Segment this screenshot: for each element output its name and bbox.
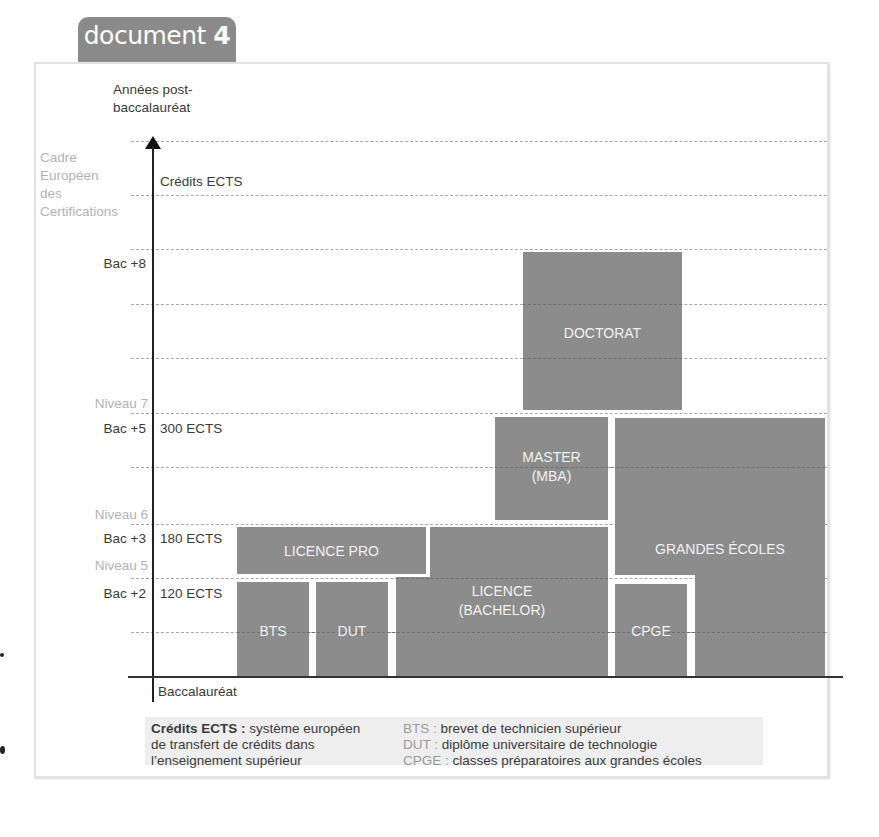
y-axis [152,146,154,702]
cec-title-line1: Cadre [40,150,77,165]
legend-bts: BTS : brevet de technicien supérieur [403,720,621,737]
legend-bts-key: BTS : [403,721,437,736]
label-master-line1: MASTER [495,448,608,467]
row-years-bac5: Bac +5 [90,421,146,436]
document-tab-word: document [84,21,206,50]
label-licence-pro: LICENCE PRO [237,542,426,561]
y-axis-title-line2: baccalauréat [113,100,190,115]
label-licence-line1: LICENCE [396,582,608,601]
level-7: Niveau 7 [70,396,148,411]
row-years-bac8: Bac +8 [90,256,146,271]
row-years-bac2: Bac +2 [90,586,146,601]
label-dut: DUT [316,622,388,641]
gridline [131,249,827,250]
legend-cpge: CPGE : classes préparatoires aux grandes… [403,752,702,769]
box-licence-upper [430,527,608,577]
legend-ects-line2: de transfert de crédits dans [151,736,315,753]
gridline-overlay [396,578,608,579]
label-grandes-ecoles: GRANDES ÉCOLES [615,540,825,559]
row-ects-180: 180 ECTS [160,531,222,546]
gridline [131,195,827,196]
gridline-overlay [523,304,682,305]
label-licence: LICENCE (BACHELOR) [396,582,608,620]
legend-dut-key: DUT : [403,737,438,752]
gridline [131,358,827,359]
y-axis-title-line1: Années post- [113,82,193,97]
legend-ects-line3: l’enseignement supérieur [151,752,302,769]
gridline [131,141,827,142]
row-ects-120: 120 ECTS [160,586,222,601]
box-grandes-ecoles-lower [695,570,825,677]
origin-label: Baccalauréat [158,684,237,699]
legend-ects-line1: Crédits ECTS : système européen [151,720,360,737]
row-ects-300: 300 ECTS [160,421,222,436]
label-cpge: CPGE [615,622,687,641]
label-doctorat: DOCTORAT [523,324,682,343]
level-5: Niveau 5 [70,558,148,573]
level-6: Niveau 6 [70,507,148,522]
margin-dot-1 [0,653,4,657]
legend-dut: DUT : diplôme universitaire de technolog… [403,736,657,753]
gridline [131,304,827,305]
label-licence-line2: (BACHELOR) [396,601,608,620]
credits-ects-title: Crédits ECTS [160,174,243,189]
row-years-bac3: Bac +3 [90,531,146,546]
label-bts: BTS [237,622,309,641]
gridline-overlay [523,358,682,359]
cec-title-line4: Certifications [40,204,118,219]
cec-title-line2: Européen [40,168,99,183]
document-tab: document 4 [78,17,236,63]
margin-dot-2 [0,746,5,754]
x-axis [128,676,843,678]
gridline [131,413,827,414]
cec-title-line3: des [40,186,62,201]
document-tab-number: 4 [213,21,230,50]
label-master: MASTER (MBA) [495,448,608,486]
label-master-line2: (MBA) [495,467,608,486]
legend-ects-key: Crédits ECTS : [151,721,246,736]
legend-box: Crédits ECTS : système européen de trans… [145,717,763,765]
legend-cpge-key: CPGE : [403,753,449,768]
